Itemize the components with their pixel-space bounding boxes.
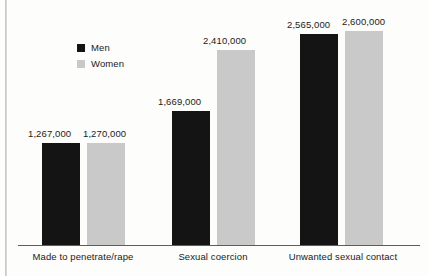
legend-label-men: Men <box>91 42 110 53</box>
bar-women-unwanted-sexual-contact[interactable] <box>345 31 383 245</box>
legend-swatch-men-icon <box>77 44 85 52</box>
value-label-men-unwanted-sexual-contact: 2,565,000 <box>287 19 330 30</box>
bar-group-bars <box>18 0 148 245</box>
bar-group-sexual-coercion: 1,669,000 2,410,000 <box>148 0 278 276</box>
value-label-men-made-to-penetrate-rape: 1,267,000 <box>28 128 71 139</box>
bar-men-unwanted-sexual-contact[interactable] <box>300 34 338 245</box>
legend: Men Women <box>77 41 124 73</box>
bar-group-unwanted-sexual-contact: 2,565,000 2,600,000 <box>276 0 406 276</box>
value-label-women-unwanted-sexual-contact: 2,600,000 <box>342 16 385 27</box>
x-axis-label-sexual-coercion: Sexual coercion <box>148 251 278 262</box>
x-axis-label-made-to-penetrate-rape: Made to penetrate/rape <box>18 251 148 262</box>
legend-swatch-women-icon <box>77 60 85 68</box>
plot-area: 1,267,000 1,270,000 1,669,000 2,410,000 … <box>0 0 429 276</box>
value-label-women-sexual-coercion: 2,410,000 <box>203 35 246 46</box>
bar-women-sexual-coercion[interactable] <box>217 50 255 245</box>
bar-women-made-to-penetrate-rape[interactable] <box>87 143 125 245</box>
value-label-women-made-to-penetrate-rape: 1,270,000 <box>83 128 126 139</box>
value-label-men-sexual-coercion: 1,669,000 <box>158 96 201 107</box>
bar-men-made-to-penetrate-rape[interactable] <box>42 143 80 245</box>
legend-item-women[interactable]: Women <box>77 57 124 70</box>
bar-group-bars <box>276 0 406 245</box>
x-axis-label-unwanted-sexual-contact: Unwanted sexual contact <box>276 251 410 262</box>
legend-item-men[interactable]: Men <box>77 41 124 54</box>
bar-men-sexual-coercion[interactable] <box>172 111 210 245</box>
bar-chart-figure: 1,267,000 1,270,000 1,669,000 2,410,000 … <box>0 0 429 276</box>
legend-label-women: Women <box>91 58 124 69</box>
